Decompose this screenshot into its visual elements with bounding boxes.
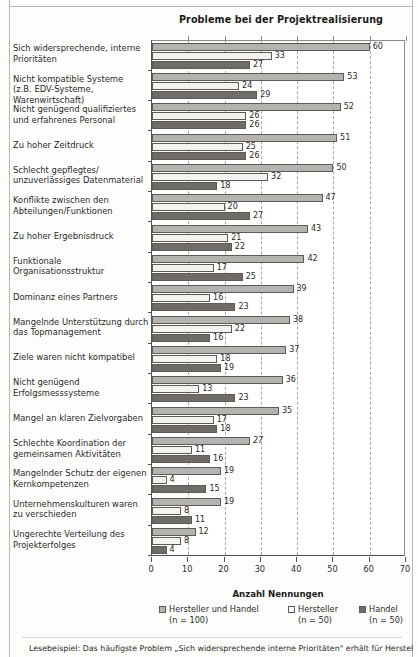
category-tick xyxy=(148,494,152,495)
legend-series-n: (n = 50) xyxy=(369,615,403,625)
bar-2-15 xyxy=(152,516,192,524)
bar-group: 421725 xyxy=(152,255,404,282)
x-tick-label-0: 0 xyxy=(148,564,153,574)
bar-2-10 xyxy=(152,364,221,372)
x-axis-title: Anzahl Nennungen xyxy=(151,589,405,599)
bar-0-2 xyxy=(152,103,341,111)
legend-item-0: Hersteller und Handel(n = 100) xyxy=(159,604,259,625)
x-tick-40 xyxy=(296,557,297,562)
bar-group: 391623 xyxy=(152,285,404,312)
top-tick-20 xyxy=(225,36,226,41)
category-label-line: Zu hoher Zeitdruck xyxy=(13,140,149,151)
bar-2-6 xyxy=(152,243,232,251)
bar-value-label: 18 xyxy=(220,355,230,363)
bar-value-label: 22 xyxy=(235,243,245,251)
bar-0-7 xyxy=(152,255,304,263)
bar-group: 472027 xyxy=(152,194,404,221)
category-label-line: Kernkompetenzen xyxy=(13,479,149,490)
bar-value-label: 38 xyxy=(293,316,303,324)
category-label-line: zu verschieden xyxy=(13,509,149,520)
category-label: Zu hoher Zeitdruck xyxy=(13,140,149,151)
category-tick xyxy=(148,130,152,131)
bar-value-label: 25 xyxy=(246,143,256,151)
category-label-line: Konflikte zwischen den xyxy=(13,195,149,206)
category-label: FunktionaleOrganisationsstruktur xyxy=(13,256,149,277)
bar-1-0 xyxy=(152,52,272,60)
bar-value-label: 25 xyxy=(246,273,256,281)
top-tick-70 xyxy=(406,36,407,41)
bar-0-10 xyxy=(152,346,286,354)
bar-value-label: 8 xyxy=(184,507,189,515)
x-tick-30 xyxy=(260,557,261,562)
category-label: Schlechte Koordination dergemeinsamen Ak… xyxy=(13,438,149,459)
bar-value-label: 53 xyxy=(347,73,357,81)
category-label: Zu hoher Ergebnisdruck xyxy=(13,231,149,242)
bar-1-5 xyxy=(152,203,225,211)
x-tick-70 xyxy=(405,557,406,562)
category-label: Unternehmenskulturen warenzu verschieden xyxy=(13,499,149,520)
page-border-left xyxy=(9,0,10,657)
bar-value-label: 21 xyxy=(231,234,241,242)
category-label: Ziele waren nicht kompatibel xyxy=(13,352,149,363)
bar-0-6 xyxy=(152,225,308,233)
bar-2-8 xyxy=(152,303,235,311)
bar-value-label: 17 xyxy=(217,416,227,424)
x-tick-50 xyxy=(332,557,333,562)
category-label-line: Organisationsstruktur xyxy=(13,266,149,277)
bar-value-label: 39 xyxy=(297,285,307,293)
footnote-text: Lesebeispiel: Das häufigste Problem „Sic… xyxy=(29,643,413,654)
category-label: Ungerechte Verteilung desProjekterfolges xyxy=(13,529,149,550)
category-tick xyxy=(148,191,152,192)
category-label: Mangelnder Schutz der eigenenKernkompete… xyxy=(13,468,149,489)
category-label-line: Zu hoher Ergebnisdruck xyxy=(13,231,149,242)
x-tick-label-60: 60 xyxy=(363,564,373,574)
bar-value-label: 11 xyxy=(195,516,205,524)
bar-0-5 xyxy=(152,194,323,202)
bar-1-3 xyxy=(152,143,243,151)
bar-value-label: 12 xyxy=(199,528,209,536)
bar-value-label: 23 xyxy=(238,394,248,402)
bar-value-label: 24 xyxy=(242,82,252,90)
bar-0-12 xyxy=(152,407,279,415)
x-tick-60 xyxy=(369,557,370,562)
legend-series-name: Handel xyxy=(369,604,398,614)
bar-1-2 xyxy=(152,112,246,120)
bar-value-label: 22 xyxy=(235,325,245,333)
category-tick xyxy=(148,100,152,101)
legend-series-n: (n = 50) xyxy=(298,615,338,625)
bar-2-16 xyxy=(152,546,167,554)
bar-1-9 xyxy=(152,325,232,333)
bar-2-14 xyxy=(152,485,206,493)
category-tick xyxy=(148,373,152,374)
category-tick xyxy=(148,161,152,162)
category-label: Sich widersprechende, internePrioritäten xyxy=(13,43,149,64)
bar-2-1 xyxy=(152,91,257,99)
bar-1-4 xyxy=(152,173,268,181)
top-tick-60 xyxy=(370,36,371,41)
category-label-line: Funktionale xyxy=(13,256,149,267)
category-tick xyxy=(148,282,152,283)
category-label-line: Nicht kompatible Systeme xyxy=(13,74,149,85)
bar-value-label: 11 xyxy=(195,446,205,454)
bar-value-label: 33 xyxy=(275,52,285,60)
bar-2-7 xyxy=(152,273,243,281)
category-label-line: Ungerechte Verteilung des xyxy=(13,529,149,540)
bar-value-label: 36 xyxy=(286,376,296,384)
bar-0-13 xyxy=(152,437,250,445)
x-tick-label-70: 70 xyxy=(400,564,410,574)
bar-0-11 xyxy=(152,376,283,384)
x-tick-label-20: 20 xyxy=(218,564,228,574)
bar-group: 603327 xyxy=(152,43,404,70)
bar-0-16 xyxy=(152,528,196,536)
bar-0-3 xyxy=(152,134,337,142)
bar-1-1 xyxy=(152,82,239,90)
x-axis: 010203040506070 xyxy=(151,557,405,579)
chart-title: Probleme bei der Projektrealisierung xyxy=(150,14,412,25)
category-label-line: gemeinsamen Aktivitäten xyxy=(13,449,149,460)
legend-swatch-1 xyxy=(288,606,295,613)
bar-1-16 xyxy=(152,537,181,545)
x-tick-0 xyxy=(151,557,152,562)
category-label-line: Unternehmenskulturen waren xyxy=(13,499,149,510)
category-tick xyxy=(148,525,152,526)
category-label-line: Schlecht gepflegtes/ xyxy=(13,165,149,176)
